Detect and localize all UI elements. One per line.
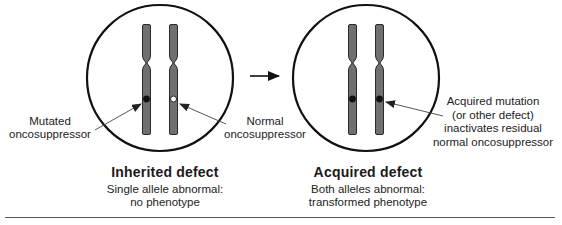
chromosome-normal bbox=[170, 25, 178, 135]
panel-title-acquired: Acquired defect bbox=[293, 164, 443, 180]
mutated-allele-marker bbox=[349, 96, 356, 103]
label-acquired-line3: inactivates residual bbox=[419, 122, 562, 136]
label-mutated: Mutated oncosuppressor bbox=[6, 115, 94, 141]
acquired-mutation-marker bbox=[376, 96, 383, 103]
subtitle-line1: Both alleles abnormal: bbox=[288, 183, 448, 196]
mutated-allele-marker bbox=[143, 96, 150, 103]
panel-inherited-cell bbox=[87, 5, 233, 151]
chromosome-mutated bbox=[143, 25, 151, 135]
label-acquired-line4: normal oncosuppressor bbox=[419, 136, 562, 150]
subtitle-line1: Single allele abnormal: bbox=[90, 183, 240, 196]
normal-allele-marker bbox=[171, 96, 177, 102]
label-acquired-mutation: Acquired mutation (or other defect) inac… bbox=[419, 95, 562, 149]
label-mutated-line1: Mutated bbox=[6, 115, 94, 128]
label-acquired-line2: (or other defect) bbox=[419, 109, 562, 123]
panel-subtitle-inherited: Single allele abnormal: no phenotype bbox=[90, 183, 240, 209]
label-mutated-line2: oncosuppressor bbox=[6, 128, 94, 141]
cell-outline bbox=[87, 5, 233, 151]
panel-title-inherited: Inherited defect bbox=[90, 164, 240, 180]
label-normal: Normal oncosuppressor bbox=[220, 115, 310, 141]
chromosome-mutated-1 bbox=[349, 25, 357, 135]
bottom-divider bbox=[5, 217, 555, 218]
chromosome-mutated-2 bbox=[376, 25, 384, 135]
subtitle-line2: transformed phenotype bbox=[288, 196, 448, 209]
label-normal-line2: oncosuppressor bbox=[220, 128, 310, 141]
pointer-mutated bbox=[95, 104, 141, 130]
subtitle-line2: no phenotype bbox=[90, 196, 240, 209]
panel-subtitle-acquired: Both alleles abnormal: transformed pheno… bbox=[288, 183, 448, 209]
cell-outline bbox=[293, 5, 439, 151]
label-normal-line1: Normal bbox=[220, 115, 310, 128]
label-acquired-line1: Acquired mutation bbox=[419, 95, 562, 109]
